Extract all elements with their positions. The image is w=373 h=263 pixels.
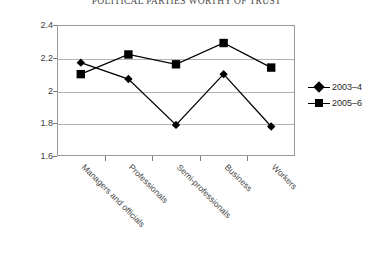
y-axis-tick-mark bbox=[53, 91, 57, 92]
gridline bbox=[58, 92, 294, 93]
gridline bbox=[58, 124, 294, 125]
chart-title: POLITICAL PARTIES WORTHY OF TRUST bbox=[0, 0, 373, 6]
diamond-marker bbox=[308, 81, 330, 93]
legend-item[interactable]: 2005–6 bbox=[308, 95, 371, 111]
legend-item-label: 2005–6 bbox=[330, 98, 362, 108]
legend-item[interactable]: 2003–4 bbox=[308, 79, 371, 95]
y-axis-tick-mark bbox=[53, 25, 57, 26]
y-axis-tick-marks bbox=[0, 25, 57, 156]
y-axis-tick-mark bbox=[53, 58, 57, 59]
chart-legend: 2003–42005–6 bbox=[308, 79, 371, 111]
x-axis-tick-label: Professionals bbox=[127, 162, 170, 205]
chart-figure: POLITICAL PARTIES WORTHY OF TRUST 2.42.2… bbox=[0, 0, 373, 263]
legend-item-label: 2003–4 bbox=[330, 82, 362, 92]
x-axis-tick-label: Workers bbox=[270, 162, 299, 191]
x-axis-tick-label: Business bbox=[223, 162, 254, 193]
plot-area bbox=[57, 25, 295, 156]
x-axis-labels: Managers and officialsProfessionalsSemi-… bbox=[0, 156, 373, 263]
gridline bbox=[58, 59, 294, 60]
square-marker bbox=[308, 97, 330, 109]
y-axis-tick-mark bbox=[53, 123, 57, 124]
